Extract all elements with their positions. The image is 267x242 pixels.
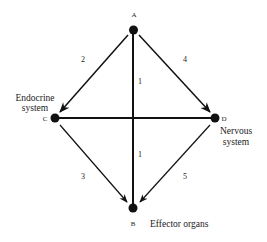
endocrine-system-label-line2: system — [22, 103, 49, 113]
node-a-label: A — [131, 11, 136, 19]
edge-label-2: 2 — [81, 55, 85, 64]
node-a — [129, 26, 138, 35]
node-c-label: C — [43, 115, 48, 123]
edge-a-d-arrow — [139, 35, 210, 112]
edge-label-5: 5 — [183, 172, 187, 181]
edge-label-3: 3 — [81, 172, 85, 181]
node-c — [51, 114, 60, 123]
effector-organs-label: Effector organs — [150, 219, 209, 229]
node-d — [211, 114, 220, 123]
node-d-label: D — [221, 115, 226, 123]
edge-label-1-upper: 1 — [138, 77, 142, 86]
edge-label-1-lower: 1 — [138, 150, 142, 159]
control-systems-diagram: A C D B Endocrine system Nervous system … — [0, 0, 267, 242]
edge-c-b-arrow — [60, 125, 127, 202]
endocrine-system-label-line1: Endocrine — [15, 93, 54, 103]
edge-a-c-arrow — [60, 35, 128, 112]
nervous-system-label-line1: Nervous — [220, 126, 252, 136]
edge-label-4: 4 — [183, 55, 187, 64]
node-b — [129, 204, 138, 213]
edge-d-b-arrow — [140, 125, 210, 202]
node-b-label: B — [131, 220, 136, 228]
nervous-system-label-line2: system — [223, 137, 250, 147]
